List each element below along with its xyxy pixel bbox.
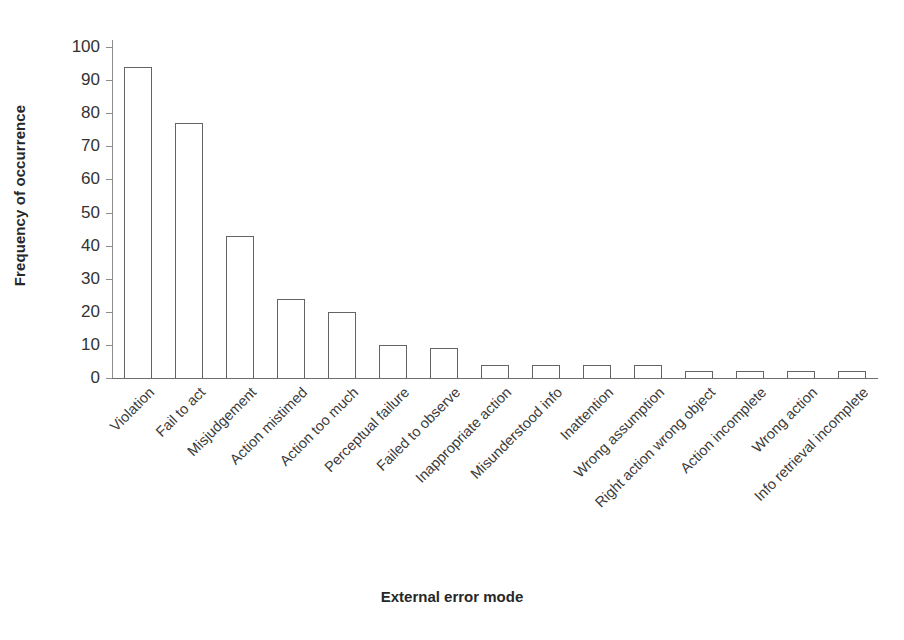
bar: [634, 365, 662, 378]
y-axis-title-text: Frequency of occurrence: [12, 104, 29, 286]
bar-chart: Frequency of occurrence 0102030405060708…: [0, 0, 904, 640]
bar: [175, 123, 203, 378]
y-axis-tick: [106, 378, 112, 379]
bar: [685, 371, 713, 378]
bar: [481, 365, 509, 378]
y-axis-tick-label: 100: [56, 37, 100, 57]
x-axis-tick-label-text: Wrong assumption: [571, 384, 668, 481]
x-axis-tick-label-text: Inappropriate action: [412, 384, 514, 486]
x-axis-line: [112, 378, 878, 379]
plot-area: [112, 47, 878, 378]
bar: [583, 365, 611, 378]
y-axis-title: Frequency of occurrence: [0, 0, 40, 390]
y-axis-tick-label: 30: [56, 269, 100, 289]
y-axis-tick-label: 90: [56, 70, 100, 90]
y-axis-tick-label: 40: [56, 236, 100, 256]
bar: [277, 299, 305, 378]
bar: [379, 345, 407, 378]
bar: [430, 348, 458, 378]
y-axis-tick-label: 80: [56, 103, 100, 123]
x-axis-tick-label-text: Violation: [106, 384, 156, 434]
bar: [226, 236, 254, 378]
y-axis-tick-label: 10: [56, 335, 100, 355]
y-axis-tick-label: 50: [56, 203, 100, 223]
x-axis-tick-label-text: Misunderstood info: [467, 384, 565, 482]
x-axis-title: External error mode: [0, 588, 904, 605]
y-axis-tick-label: 70: [56, 136, 100, 156]
bar: [124, 67, 152, 378]
y-axis-tick-label: 60: [56, 169, 100, 189]
bar: [736, 371, 764, 378]
bar: [328, 312, 356, 378]
y-axis-tick-label: 20: [56, 302, 100, 322]
bar: [532, 365, 560, 378]
bar: [787, 371, 815, 378]
bar: [838, 371, 866, 378]
y-axis-tick-label: 0: [56, 368, 100, 388]
